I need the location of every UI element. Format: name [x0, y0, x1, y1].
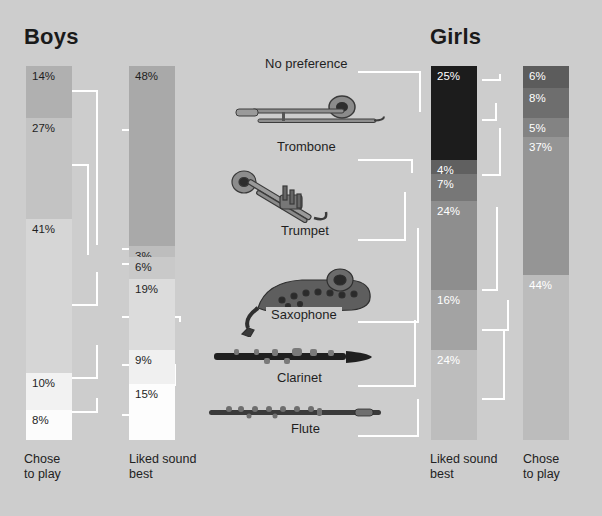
bar-segment: 48%	[129, 66, 175, 246]
instrument-label: Trombone	[272, 139, 341, 154]
axis-label-boys-chose: Chose to play	[24, 452, 61, 482]
saxophone-icon	[228, 262, 378, 341]
bar-segment: 8%	[26, 410, 72, 440]
bar-segment: 44%	[523, 275, 569, 440]
bar-segment: 5%	[523, 118, 569, 137]
instrument-label: Trumpet	[276, 223, 334, 238]
axis-label-girls-chose: Chose to play	[523, 452, 560, 482]
connector-lines	[0, 0, 602, 516]
instrument-label: No preference	[260, 56, 352, 71]
page-title-boys: Boys	[24, 24, 79, 50]
bar-segment: 19%	[129, 279, 175, 350]
segment-value-label: 44%	[529, 279, 552, 291]
segment-value-label: 7%	[437, 178, 454, 190]
segment-value-label: 9%	[135, 354, 152, 366]
bar-girls-liked: 25%4%7%24%16%24%	[431, 66, 477, 440]
trombone-icon	[222, 95, 392, 139]
segment-value-label: 8%	[529, 92, 546, 104]
bar-segment: 27%	[26, 118, 72, 219]
bar-segment: 8%	[523, 88, 569, 118]
bar-segment: 24%	[431, 201, 477, 291]
segment-value-label: 48%	[135, 70, 158, 82]
segment-value-label: 6%	[135, 261, 152, 273]
segment-value-label: 6%	[529, 70, 546, 82]
segment-value-label: 15%	[135, 388, 158, 400]
segment-value-label: 37%	[529, 141, 552, 153]
bar-segment: 3%	[129, 246, 175, 257]
bar-segment: 14%	[26, 66, 72, 118]
axis-label-boys-liked: Liked sound best	[129, 452, 196, 482]
segment-value-label: 41%	[32, 223, 55, 235]
page-title-girls: Girls	[430, 24, 481, 50]
bar-segment: 24%	[431, 350, 477, 440]
segment-value-label: 19%	[135, 283, 158, 295]
bar-boys-chose: 14%27%41%10%8%	[26, 66, 72, 440]
instrument-label: Clarinet	[272, 370, 327, 385]
segment-value-label: 16%	[437, 294, 460, 306]
bar-segment: 10%	[26, 373, 72, 410]
bar-segment: 9%	[129, 350, 175, 384]
bar-boys-liked: 48%3%6%19%9%15%	[129, 66, 175, 440]
bar-segment: 6%	[129, 257, 175, 279]
instrument-label: Flute	[286, 421, 325, 436]
bar-segment: 6%	[523, 66, 569, 88]
segment-value-label: 5%	[529, 122, 546, 134]
axis-label-girls-liked: Liked sound best	[430, 452, 497, 482]
bar-segment: 15%	[129, 384, 175, 440]
segment-value-label: 10%	[32, 377, 55, 389]
bar-segment: 16%	[431, 290, 477, 350]
segment-value-label: 27%	[32, 122, 55, 134]
bar-segment: 41%	[26, 219, 72, 372]
segment-value-label: 25%	[437, 70, 460, 82]
bar-segment: 4%	[431, 160, 477, 175]
bar-segment: 25%	[431, 66, 477, 160]
segment-value-label: 24%	[437, 354, 460, 366]
segment-value-label: 8%	[32, 414, 49, 426]
bar-segment: 7%	[431, 174, 477, 200]
instrument-label: Saxophone	[266, 307, 342, 322]
bar-segment: 37%	[523, 137, 569, 275]
segment-value-label: 14%	[32, 70, 55, 82]
infographic-canvas: Boys Girls	[0, 0, 602, 516]
bar-girls-chose: 6%8%5%37%44%	[523, 66, 569, 440]
segment-value-label: 24%	[437, 205, 460, 217]
